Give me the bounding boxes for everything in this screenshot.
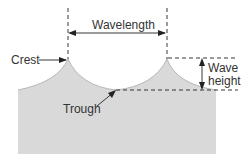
wave-height-label-line2: height	[208, 75, 241, 88]
crest-label: Crest	[11, 54, 40, 67]
water-body	[18, 59, 216, 154]
wavelength-label: Wavelength	[92, 19, 155, 32]
trough-label: Trough	[63, 103, 101, 116]
